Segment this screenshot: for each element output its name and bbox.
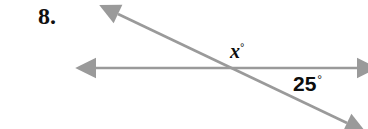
degree-icon: ° [317,74,322,86]
angle-25-value: 25 [293,73,316,94]
degree-icon: ° [240,42,244,53]
angle-label-25: 25° [293,73,322,94]
angle-x-value: x [230,41,240,61]
figure-canvas: 8. x° 25° [0,0,368,129]
problem-number: 8. [38,3,56,29]
angle-label-x: x° [230,41,244,61]
